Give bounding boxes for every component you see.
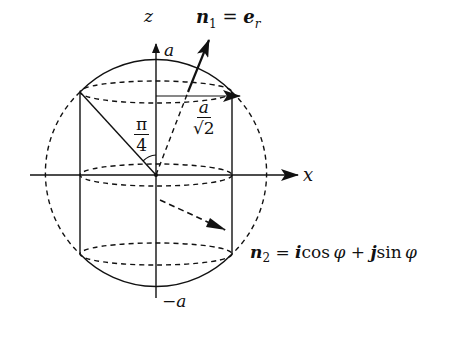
sphere-cylinder-diagram: z a x −a n1 = er π 4 a √2 n2 = icos φ + …	[0, 0, 474, 344]
sphere-right-dashed	[232, 92, 267, 254]
z-axis-label: z	[144, 6, 153, 26]
n2-equation: n2 = icos φ + jsin φ	[250, 242, 417, 265]
angle-label: π 4	[134, 116, 149, 154]
top-a-label: a	[164, 40, 174, 60]
radius-label: a √2	[193, 99, 215, 137]
x-axis-label: x	[303, 164, 313, 185]
sphere-left-dashed	[45, 92, 80, 254]
bottom-a-label: −a	[162, 291, 186, 311]
n1-equation: n1 = er	[196, 6, 261, 31]
diagram-graphics	[0, 0, 474, 344]
